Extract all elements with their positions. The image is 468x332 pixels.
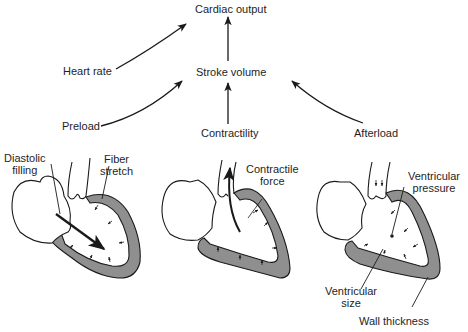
contractile-force-arrow: [229, 168, 240, 232]
node-preload: Preload: [62, 120, 100, 132]
label-diastolic-filling: Diastolic filling: [4, 152, 46, 176]
atrium: [162, 180, 216, 240]
label-ventricular-pressure: Ventricular pressure: [408, 170, 460, 194]
label-ventricular-size-line1: Ventricular: [325, 285, 377, 297]
atrium: [317, 181, 366, 240]
label-contractile-force-line1: Contractile: [246, 163, 299, 175]
great-vessel: [68, 158, 90, 199]
label-contractile-force-line2: force: [246, 175, 299, 187]
node-cardiac-output: Cardiac output: [195, 3, 267, 15]
label-fiber-stretch-line2: stretch: [100, 165, 133, 177]
atrium: [12, 176, 71, 243]
label-contractile-force: Contractile force: [246, 163, 299, 187]
label-ventricular-size-line2: size: [325, 297, 377, 309]
label-ventricular-pressure-line2: pressure: [408, 182, 460, 194]
label-ventricular-size: Ventricular size: [325, 285, 377, 309]
label-diastolic-filling-line1: Diastolic: [4, 152, 46, 164]
label-ventricular-pressure-line1: Ventricular: [408, 170, 460, 182]
node-afterload: Afterload: [354, 127, 398, 139]
node-stroke-volume: Stroke volume: [196, 66, 266, 78]
arrow-preload-to-stroke-volume: [101, 81, 182, 126]
great-vessel: [218, 160, 236, 197]
arrow-heart-rate-to-cardiac-output: [116, 24, 186, 69]
node-contractility: Contractility: [201, 127, 258, 139]
label-fiber-stretch: Fiber stretch: [100, 153, 133, 177]
label-diastolic-filling-line2: filling: [4, 164, 46, 176]
label-wall-thickness: Wall thickness: [359, 315, 429, 327]
diagram-canvas: [0, 0, 468, 332]
label-fiber-stretch-line1: Fiber: [100, 153, 133, 165]
arrow-afterload-to-stroke-volume: [292, 81, 363, 123]
node-heart-rate: Heart rate: [63, 65, 112, 77]
